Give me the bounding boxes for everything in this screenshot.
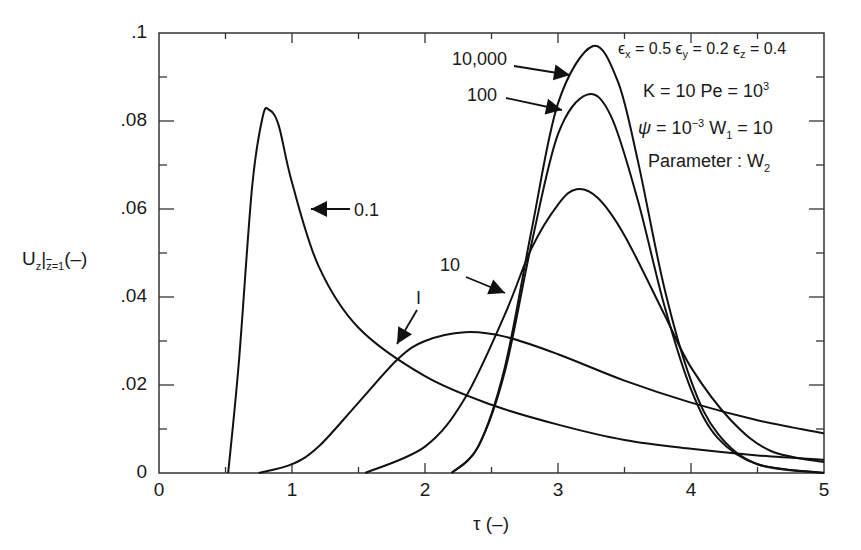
y-tick-label: .02 xyxy=(97,373,147,395)
annotation-epsilon: ϵx = 0.5 ϵy = 0.2 ϵz = 0.4 xyxy=(618,40,786,60)
annotation-psi-w1: ψ = 10−3 W1 = 10 xyxy=(638,117,773,141)
annotation-k-pe: K = 10 Pe = 103 xyxy=(643,80,769,102)
y-tick-label: .04 xyxy=(97,285,147,307)
x-tick-label: 2 xyxy=(410,479,440,501)
x-tick-label: 5 xyxy=(809,479,839,501)
curve-label-100: 100 xyxy=(467,85,497,106)
annotation-parameter: Parameter : W2 xyxy=(648,151,770,174)
y-tick-label: .1 xyxy=(97,21,147,43)
curve-label-1: I xyxy=(416,288,421,309)
x-tick-label: 0 xyxy=(144,479,174,501)
curve-w2-1 xyxy=(259,332,824,473)
y-axis-label: Uz|z=1(–) xyxy=(22,248,87,272)
y-tick-label: 0 xyxy=(97,461,147,483)
x-axis-label: τ (–) xyxy=(473,513,509,535)
arrow-icon xyxy=(311,201,327,217)
curve-label-10: 10 xyxy=(440,255,460,276)
x-tick-label: 3 xyxy=(543,479,573,501)
y-tick-label: .08 xyxy=(97,109,147,131)
curves xyxy=(228,46,824,473)
arrow-icon xyxy=(397,326,412,344)
x-tick-label: 4 xyxy=(676,479,706,501)
curve-label-10000: 10,000 xyxy=(452,49,507,70)
curve-label-0-1: 0.1 xyxy=(354,200,379,221)
y-tick-label: .06 xyxy=(97,197,147,219)
curve-w2-10 xyxy=(365,189,824,473)
x-tick-label: 1 xyxy=(277,479,307,501)
label-arrows xyxy=(311,65,570,344)
